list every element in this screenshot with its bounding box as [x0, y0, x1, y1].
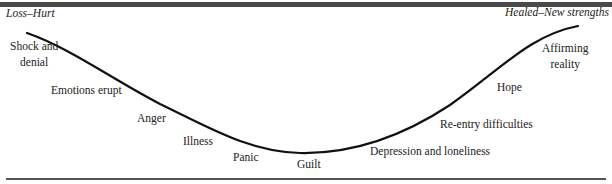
stage-panic: Panic	[233, 149, 259, 165]
stage-label-line1: Affirming	[542, 40, 588, 56]
stage-label-line2: denial	[10, 54, 58, 70]
stage-depression-loneliness: Depression and loneliness	[370, 143, 490, 159]
start-label: Loss–Hurt	[6, 5, 55, 21]
bottom-rule	[6, 178, 606, 180]
stage-re-entry-difficulties: Re-entry difficulties	[440, 116, 533, 132]
stage-illness: Illness	[183, 133, 213, 149]
stage-anger: Anger	[137, 110, 166, 126]
stage-guilt: Guilt	[297, 156, 321, 172]
stage-affirming-reality: Affirming reality	[542, 40, 588, 72]
stage-label-line2: reality	[542, 56, 588, 72]
end-label: Healed–New strengths	[505, 4, 609, 20]
stage-hope: Hope	[497, 79, 522, 95]
stage-label-line1: Shock and	[10, 38, 58, 54]
stage-shock-denial: Shock and denial	[10, 38, 58, 70]
stage-emotions-erupt: Emotions erupt	[51, 82, 122, 98]
